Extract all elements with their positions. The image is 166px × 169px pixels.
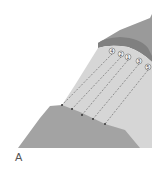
- svg-text:2: 2: [120, 51, 123, 57]
- rockfall-diagram: 4 2 1 3 5: [0, 0, 166, 169]
- marker-2: 2: [118, 51, 124, 57]
- marker-4: 4: [109, 48, 115, 54]
- svg-text:1: 1: [127, 54, 130, 60]
- marker-1: 1: [125, 54, 131, 60]
- svg-text:4: 4: [111, 48, 114, 54]
- svg-text:3: 3: [138, 58, 141, 64]
- svg-text:5: 5: [147, 64, 150, 70]
- marker-5: 5: [145, 64, 151, 70]
- marker-3: 3: [136, 58, 142, 64]
- panel-label: A: [15, 151, 22, 163]
